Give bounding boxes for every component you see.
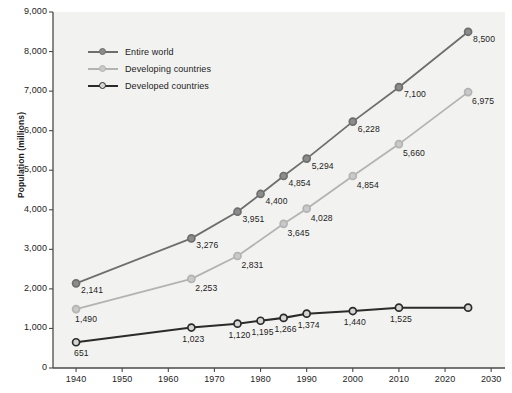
series-marker-1 (349, 172, 356, 179)
data-point-label: 7,100 (404, 89, 426, 99)
legend-marker-icon (88, 80, 118, 92)
series-marker-0 (395, 84, 402, 91)
data-point-label: 1,440 (344, 317, 366, 327)
data-point-label: 2,253 (195, 283, 217, 293)
x-axis-tick-label: 1950 (102, 374, 142, 384)
legend-label: Entire world (125, 47, 174, 57)
series-marker-1 (280, 220, 287, 227)
y-axis-tick-label: 4,000 (3, 204, 47, 214)
series-marker-1 (303, 205, 310, 212)
legend-item-2[interactable]: Developed countries (88, 77, 211, 94)
legend-item-1[interactable]: Developing countries (88, 60, 211, 77)
data-point-label: 4,028 (311, 213, 333, 223)
y-axis-tick-label: 8,000 (3, 46, 47, 56)
legend-label: Developed countries (125, 81, 209, 91)
data-point-label: 3,951 (242, 214, 264, 224)
chart-legend: Entire worldDeveloping countriesDevelope… (88, 43, 211, 94)
series-marker-1 (234, 253, 241, 260)
series-marker-1 (188, 275, 195, 282)
data-point-label: 8,500 (473, 34, 495, 44)
series-marker-0 (188, 235, 195, 242)
data-point-label: 6,975 (472, 96, 494, 106)
series-marker-1 (465, 89, 472, 96)
legend-item-0[interactable]: Entire world (88, 43, 211, 60)
legend-marker-icon (88, 46, 118, 58)
data-point-label: 1,120 (228, 330, 250, 340)
data-point-label: 3,645 (288, 228, 310, 238)
legend-dot (99, 82, 106, 89)
y-axis-title: Population (millions) (16, 90, 26, 220)
data-point-label: 5,660 (403, 148, 425, 158)
x-axis-tick-label: 1970 (194, 374, 234, 384)
data-point-label: 1,490 (75, 314, 97, 324)
data-point-label: 1,374 (298, 320, 320, 330)
y-axis-tick-label: 5,000 (3, 164, 47, 174)
population-line-chart: Population (millions) 01,0002,0003,0004,… (0, 0, 512, 393)
x-axis-tick-label: 1990 (287, 374, 327, 384)
series-marker-2 (395, 304, 402, 311)
y-axis-tick-label: 2,000 (3, 283, 47, 293)
data-point-label: 4,400 (266, 196, 288, 206)
data-point-label: 1,266 (275, 324, 297, 334)
data-point-label: 2,831 (241, 260, 263, 270)
x-axis-tick-label: 2010 (379, 374, 419, 384)
x-axis-tick-label: 1980 (241, 374, 281, 384)
series-marker-0 (349, 118, 356, 125)
series-marker-2 (257, 317, 264, 324)
series-marker-2 (465, 304, 472, 311)
y-axis-tick-label: 1,000 (3, 322, 47, 332)
y-axis-tick-label: 7,000 (3, 85, 47, 95)
legend-label: Developing countries (125, 64, 211, 74)
legend-dot (99, 65, 106, 72)
series-marker-0 (303, 155, 310, 162)
series-marker-1 (395, 141, 402, 148)
series-marker-2 (349, 308, 356, 315)
data-point-label: 4,854 (357, 180, 379, 190)
legend-marker-icon (88, 63, 118, 75)
data-point-label: 1,023 (182, 334, 204, 344)
series-marker-0 (73, 280, 80, 287)
y-axis-tick-label: 9,000 (3, 6, 47, 16)
y-axis-tick-label: 0 (3, 362, 47, 372)
x-axis-tick-label: 1960 (148, 374, 188, 384)
series-marker-2 (303, 310, 310, 317)
data-point-label: 5,294 (312, 161, 334, 171)
data-point-label: 1,525 (390, 314, 412, 324)
x-axis-tick-label: 2000 (333, 374, 373, 384)
series-marker-2 (188, 324, 195, 331)
data-point-label: 3,276 (196, 240, 218, 250)
series-marker-1 (73, 306, 80, 313)
x-axis-tick-label: 1940 (56, 374, 96, 384)
data-point-label: 4,854 (289, 178, 311, 188)
series-marker-0 (465, 28, 472, 35)
legend-dot (99, 48, 106, 55)
data-point-label: 1,195 (252, 327, 274, 337)
series-marker-0 (257, 190, 264, 197)
x-axis-tick-label: 2030 (471, 374, 511, 384)
series-marker-2 (73, 339, 80, 346)
series-marker-0 (280, 172, 287, 179)
x-axis-tick-label: 2020 (425, 374, 465, 384)
data-point-label: 2,141 (81, 285, 103, 295)
y-axis-tick-label: 3,000 (3, 243, 47, 253)
data-point-label: 651 (74, 348, 89, 358)
series-marker-0 (234, 208, 241, 215)
series-marker-2 (234, 320, 241, 327)
series-marker-2 (280, 314, 287, 321)
y-axis-tick-label: 6,000 (3, 125, 47, 135)
data-point-label: 6,228 (358, 124, 380, 134)
